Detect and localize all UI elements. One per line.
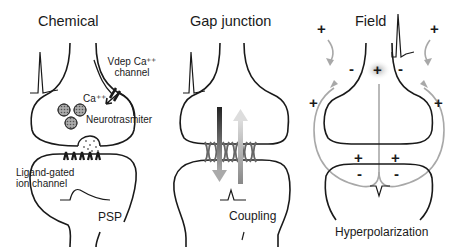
hyperpolarization-trace xyxy=(370,186,390,196)
action-potential-trace xyxy=(183,52,205,93)
minus-sign: - xyxy=(349,61,354,76)
plus-sign: + xyxy=(317,21,326,36)
plus-sign-center: + xyxy=(373,62,382,77)
minus-sign: - xyxy=(357,166,362,181)
plus-sign: + xyxy=(430,21,439,36)
label-ligand-line1: Ligand-gated xyxy=(16,167,74,178)
label-ligand-line2: ion channel xyxy=(16,178,74,189)
label-neurotransmitter: Neurotrasmiter xyxy=(86,114,152,125)
plus-sign: + xyxy=(309,95,318,110)
plus-sign: + xyxy=(434,95,443,110)
label-coupling: Coupling xyxy=(229,211,276,222)
action-potential-trace xyxy=(392,14,414,57)
plus-sign: + xyxy=(354,150,363,165)
label-psp: PSP xyxy=(98,212,122,223)
gap-junction-channels xyxy=(205,142,256,162)
presynaptic-membrane-left xyxy=(31,43,78,146)
released-transmitter xyxy=(83,140,99,152)
plus-sign: + xyxy=(391,150,400,165)
minus-sign: - xyxy=(394,166,399,181)
coupling-trace xyxy=(220,190,246,200)
minus-sign: - xyxy=(398,61,403,76)
label-vdep-channel: Vdep Ca⁺⁺ channel xyxy=(102,56,162,78)
field-panel xyxy=(314,14,444,220)
neurotransmitter-vesicles xyxy=(58,104,86,129)
panel-title-field: Field xyxy=(355,13,386,29)
panel-title-gap-junction: Gap junction xyxy=(190,13,271,29)
label-ligand-gated: Ligand-gated ion channel xyxy=(16,167,74,189)
label-calcium: Ca⁺⁺ xyxy=(83,93,106,104)
label-hyperpolarization: Hyperpolarization xyxy=(335,227,428,238)
action-potential-trace xyxy=(30,52,58,93)
psp-trace xyxy=(60,189,110,200)
panel-title-chemical: Chemical xyxy=(38,13,98,29)
label-vdep-line2: channel xyxy=(102,67,162,78)
label-vdep-line1: Vdep Ca⁺⁺ xyxy=(102,56,162,67)
